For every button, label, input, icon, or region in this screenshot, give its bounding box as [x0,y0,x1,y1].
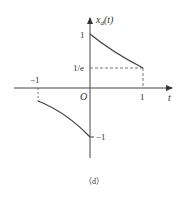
origin-label: O [80,91,87,102]
tick-y-inv-e: 1/e [73,63,84,73]
figure-caption: （d） [84,177,104,186]
tick-x-neg1: −1 [30,75,40,85]
curve-positive [90,34,143,68]
tick-y-neg1: −1 [96,132,106,142]
tick-x-pos1: 1 [140,92,145,102]
curve-negative [38,101,90,137]
tick-y-pos1: 1 [80,30,85,40]
signal-plot: xd(t) t O −1 1 1 1/e −1 （d） [0,0,185,200]
y-axis-label: xd(t) [95,14,114,27]
x-axis-label: t [168,92,171,103]
